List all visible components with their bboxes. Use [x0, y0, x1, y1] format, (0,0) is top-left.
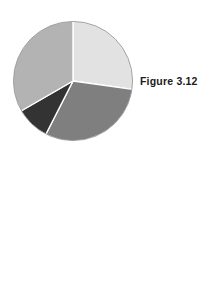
figure-3-12-caption: Figure 3.12	[140, 76, 198, 87]
pie-slice	[73, 21, 133, 89]
figure-3-13-block: Figure 3.13	[0, 150, 218, 293]
page-canvas: Figure 3.12 Figure 3.13	[0, 0, 218, 293]
figure-3-12-block: Figure 3.12	[0, 0, 218, 150]
pie-chart-figure-3-12	[13, 21, 133, 141]
